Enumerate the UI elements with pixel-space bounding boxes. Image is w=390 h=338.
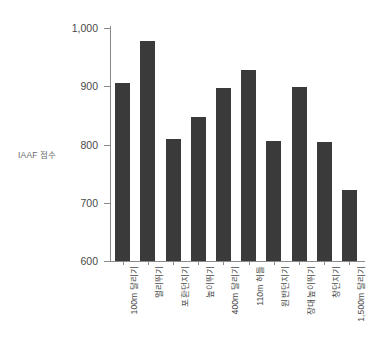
- y-axis-tick-label: 1,000: [52, 22, 98, 34]
- y-axis-title: IAAF 점수: [18, 148, 57, 160]
- x-axis-tick-label: 포환던지기: [178, 266, 190, 307]
- x-axis-tick: [349, 261, 350, 265]
- bar: [266, 141, 281, 261]
- x-axis-tick: [299, 261, 300, 265]
- bar: [342, 190, 357, 261]
- x-axis-tick-label: 100m 달리기: [127, 266, 139, 314]
- x-axis-tick-label: 멀리뛰기: [152, 266, 164, 298]
- x-axis-tick-label: 110m 허들: [253, 266, 265, 306]
- y-axis-tick-label: 900: [52, 80, 98, 92]
- x-axis-tick-label: 원반던지기: [278, 266, 290, 307]
- x-axis-tick: [198, 261, 199, 265]
- y-axis-tick-label: 800: [52, 139, 98, 151]
- bar: [292, 87, 307, 261]
- bar-chart: IAAF 점수 6007008009001,000 100m 달리기멀리뛰기포환…: [0, 0, 390, 338]
- bar: [216, 88, 231, 261]
- x-axis-tick: [173, 261, 174, 265]
- bar: [191, 117, 206, 261]
- x-axis-tick: [123, 261, 124, 265]
- x-axis-tick-label: 창던지기: [329, 266, 341, 298]
- x-axis-tick-label: 장대높이뛰기: [304, 266, 316, 315]
- bar: [241, 70, 256, 261]
- x-axis-tick-label: 1,500m 달리기: [354, 266, 366, 322]
- plot-area: [110, 28, 362, 261]
- bar: [317, 142, 332, 261]
- y-axis-tick-label: 600: [52, 255, 98, 267]
- x-axis-tick-label: 높이뛰기: [203, 266, 215, 298]
- x-axis-tick: [223, 261, 224, 265]
- y-axis-tick-label: 700: [52, 197, 98, 209]
- bar: [140, 41, 155, 261]
- x-axis-tick: [274, 261, 275, 265]
- y-axis-tick: [104, 261, 110, 262]
- bar: [115, 83, 130, 261]
- x-axis-tick: [324, 261, 325, 265]
- x-axis-tick-label: 400m 달리기: [228, 266, 240, 314]
- x-axis-tick: [249, 261, 250, 265]
- x-axis-tick: [148, 261, 149, 265]
- bar: [166, 139, 181, 261]
